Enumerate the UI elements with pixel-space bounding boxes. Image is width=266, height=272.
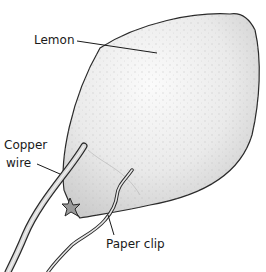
copper-wire-label-line1: Copper	[4, 138, 47, 152]
paper-clip-label: Paper clip	[106, 237, 165, 251]
copper-wire-label-line2: wire	[6, 156, 31, 170]
paper-clip-leader-line	[108, 215, 114, 235]
lemon-label: Lemon	[34, 33, 75, 47]
lemon-battery-diagram: Lemon Copper wire Paper clip	[0, 0, 266, 272]
copper-wire-leader-line	[37, 164, 60, 174]
lemon-texture	[63, 14, 259, 218]
